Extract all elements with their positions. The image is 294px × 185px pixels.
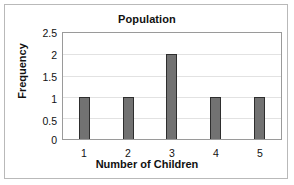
bar-category-1[interactable] [79,97,90,139]
bar-category-3[interactable] [166,54,177,139]
y-axis-tick-labels: 2.5 2 1.5 1 0.5 0 [19,28,57,140]
y-tick-label: 1 [19,94,57,105]
y-tick-label: 2.5 [19,28,57,39]
bar-slot [194,33,238,139]
y-tick-label: 0 [19,135,57,146]
y-tick-label: 2 [19,50,57,61]
bar-slot [107,33,151,139]
bars-layer [63,33,281,139]
chart-frame: Population Frequency 2.5 2 1.5 1 0.5 0 [4,4,288,179]
bar-category-2[interactable] [123,97,134,139]
bar-slot [150,33,194,139]
bar-slot [237,33,281,139]
plot-area [62,32,282,140]
bar-slot [63,33,107,139]
y-tick-label: 1.5 [19,72,57,83]
y-tick-label: 0.5 [19,116,57,127]
bar-category-5[interactable] [254,97,265,139]
x-axis-title: Number of Children [5,158,289,170]
bar-category-4[interactable] [210,97,221,139]
chart-title: Population [5,13,289,25]
